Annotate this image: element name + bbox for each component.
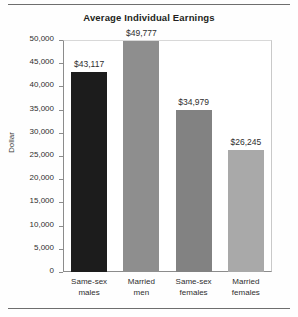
bar-value-label: $49,777	[126, 28, 157, 38]
top-divider-rule	[8, 4, 290, 5]
chart-figure: Average Individual Earnings Dollar 05,00…	[0, 0, 298, 317]
x-axis-label-line: Same-sex	[168, 276, 220, 287]
x-axis-label-line: Married	[115, 276, 167, 287]
x-axis-label-line: Same-sex	[63, 276, 115, 287]
x-axis-tick-label: Marriedmen	[115, 276, 167, 298]
y-axis-tick-label: 15,000	[30, 196, 54, 205]
x-axis-tick-label: Same-sexmales	[63, 276, 115, 298]
x-axis-tick-label: Marriedfemales	[220, 276, 272, 298]
y-axis-tick-label: 5,000	[34, 243, 54, 252]
y-axis-tick-mark	[59, 272, 63, 273]
y-axis-tick-label: 30,000	[30, 127, 54, 136]
bar-series: $43,117$49,777$34,979$26,245	[63, 40, 272, 272]
y-axis-tick-label: 40,000	[30, 80, 54, 89]
bar: $49,777	[123, 41, 159, 272]
y-axis-ticks: 05,00010,00015,00020,00025,00030,00035,0…	[0, 40, 63, 273]
bar: $43,117	[71, 72, 107, 272]
y-axis-tick-label: 0	[50, 266, 54, 275]
y-axis-tick-label: 20,000	[30, 173, 54, 182]
bar: $26,245	[228, 150, 264, 272]
x-axis-label-line: Married	[220, 276, 272, 287]
bar-value-label: $43,117	[74, 59, 104, 69]
y-axis-tick-label: 25,000	[30, 150, 54, 159]
y-axis-tick-label: 50,000	[30, 34, 54, 43]
y-axis-tick-label: 10,000	[30, 220, 54, 229]
x-axis-label-line: females	[168, 287, 220, 298]
x-axis-label-line: females	[220, 287, 272, 298]
bar-value-label: $34,979	[178, 97, 209, 107]
chart-title: Average Individual Earnings	[0, 12, 298, 23]
x-axis-label-line: men	[115, 287, 167, 298]
x-axis-tick-label: Same-sexfemales	[168, 276, 220, 298]
y-axis-tick-label: 45,000	[30, 57, 54, 66]
bar: $34,979	[176, 110, 212, 272]
bar-value-label: $26,245	[231, 137, 262, 147]
x-axis-label-line: males	[63, 287, 115, 298]
y-axis-tick-label: 35,000	[30, 104, 54, 113]
x-axis-labels: Same-sexmalesMarriedmenSame-sexfemalesMa…	[63, 276, 272, 310]
